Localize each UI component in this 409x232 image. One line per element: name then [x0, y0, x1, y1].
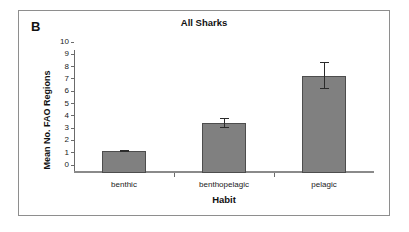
y-axis-tick-mark — [71, 91, 74, 92]
y-axis-tick-mark — [71, 54, 74, 55]
x-axis-tick-mark — [174, 173, 175, 177]
y-axis-tick-mark — [71, 115, 74, 116]
y-axis-tick-label: 9 — [65, 50, 69, 58]
x-axis-category-label: benthopelagic — [199, 180, 249, 189]
y-axis-tick-mark — [71, 152, 74, 153]
y-axis-tick-label: 10 — [60, 38, 69, 46]
x-axis-title: Habit — [74, 194, 374, 205]
error-bar — [124, 50, 125, 173]
y-axis-tick: 1 — [65, 149, 74, 157]
y-axis-tick: 2 — [65, 136, 74, 144]
plot-area: 012345678910 benthicbenthopelagicpelagic — [74, 50, 374, 173]
y-axis-tick-label: 3 — [65, 124, 69, 132]
y-axis-tick-label: 7 — [65, 75, 69, 83]
error-bar — [224, 50, 225, 173]
y-axis-tick-mark — [71, 66, 74, 67]
y-axis-tick-mark — [71, 78, 74, 79]
y-axis-tick-label: 4 — [65, 112, 69, 120]
x-axis-category-label: pelagic — [311, 180, 336, 189]
chart-title: All Sharks — [19, 17, 389, 28]
y-axis-title: Mean No. FAO Regions — [42, 50, 52, 190]
y-axis-tick-label: 0 — [65, 161, 69, 169]
y-axis-tick-label: 5 — [65, 100, 69, 108]
y-axis-tick: 7 — [65, 75, 74, 83]
y-axis-tick-label: 1 — [65, 149, 69, 157]
y-axis-line — [74, 50, 75, 173]
y-axis-tick-label: 2 — [65, 136, 69, 144]
y-axis-tick: 4 — [65, 112, 74, 120]
y-axis-tick-label: 8 — [65, 63, 69, 71]
x-axis-tick-mark — [274, 173, 275, 177]
y-axis-tick: 0 — [65, 161, 74, 169]
y-axis-tick-mark — [71, 165, 74, 166]
y-axis-tick-mark — [71, 128, 74, 129]
y-axis-tick: 3 — [65, 124, 74, 132]
y-axis-tick-mark — [71, 103, 74, 104]
y-axis-tick-mark — [71, 42, 74, 43]
figure-frame: B All Sharks Mean No. FAO Regions 012345… — [18, 10, 390, 216]
y-axis-tick: 10 — [60, 38, 74, 46]
y-axis-tick: 6 — [65, 87, 74, 95]
y-axis-tick: 5 — [65, 100, 74, 108]
y-axis-tick: 9 — [65, 50, 74, 58]
y-axis-tick-label: 6 — [65, 87, 69, 95]
x-axis-category-label: benthic — [111, 180, 137, 189]
y-axis-tick: 8 — [65, 63, 74, 71]
y-axis-tick-mark — [71, 140, 74, 141]
error-bar — [324, 50, 325, 173]
